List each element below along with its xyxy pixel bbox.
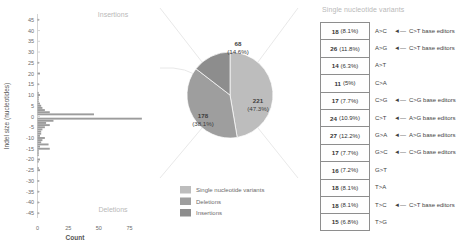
snv-count-percent: (7.2%) — [341, 167, 359, 173]
snv-count-value: 11 — [334, 80, 341, 87]
svg-text:5: 5 — [31, 103, 34, 109]
snv-row: 26(11.8%)A>G◄—C>T base editors — [320, 39, 463, 56]
snv-count-cell: 27(12.2%) — [320, 126, 370, 143]
snv-row: 18(8.1%)T>C◄—C>T base editors — [320, 196, 463, 213]
indel-y-axis-title: Indel size (nucleotides) — [3, 83, 11, 149]
snv-annotation-label: C>G base editors — [409, 149, 456, 155]
pie-label-snv-value: 221 — [253, 97, 264, 104]
snv-base-editor-annotation: ◄—C>G base editors — [394, 149, 463, 155]
snv-substitution: A>T — [370, 62, 394, 68]
svg-text:45: 45 — [28, 17, 34, 23]
snv-count-percent: (5%) — [343, 80, 356, 86]
snv-substitution: C>G — [370, 97, 394, 103]
insertions-annotation: Insertions — [98, 11, 129, 18]
svg-text:20: 20 — [28, 71, 34, 77]
snv-substitution: A>G — [370, 45, 394, 51]
svg-text:Insertions: Insertions — [196, 210, 222, 216]
snv-annotation-label: C>T base editors — [409, 45, 455, 51]
snv-count-value: 17 — [332, 97, 339, 104]
left-arrow-icon: ◄— — [394, 28, 406, 34]
pie-label-insertions-pct: (14.6%) — [227, 48, 249, 55]
snv-annotation-label: C>T base editors — [409, 202, 455, 208]
svg-text:50: 50 — [96, 225, 102, 231]
svg-text:-35: -35 — [26, 189, 34, 195]
svg-text:35: 35 — [28, 38, 34, 44]
svg-text:-20: -20 — [26, 156, 34, 162]
svg-text:0: 0 — [36, 225, 39, 231]
svg-text:15: 15 — [28, 81, 34, 87]
snv-count-value: 18 — [332, 28, 339, 35]
snv-panel-title: Single nucleotide variants — [322, 6, 404, 13]
snv-annotation-label: C>T base editors — [409, 28, 455, 34]
snv-substitution: G>T — [370, 167, 394, 173]
indel-x-ticks: 0255075 — [36, 225, 133, 231]
snv-substitution: C>A — [370, 80, 394, 86]
svg-text:-30: -30 — [26, 178, 34, 184]
snv-base-editor-annotation: ◄—C>T base editors — [394, 202, 463, 208]
snv-count-percent: (8.1%) — [341, 202, 359, 208]
snv-base-editor-annotation: ◄—C>T base editors — [394, 28, 463, 34]
left-arrow-icon: ◄— — [394, 149, 406, 155]
snv-count-percent: (7.7%) — [341, 98, 359, 104]
svg-text:75: 75 — [127, 225, 133, 231]
snv-count-percent: (12.2%) — [339, 133, 360, 139]
snv-annotation-label: C>G base editors — [409, 97, 456, 103]
snv-row: 15(6.8%)T>G — [320, 213, 463, 230]
snv-count-value: 27 — [330, 132, 337, 139]
svg-text:-40: -40 — [26, 199, 34, 205]
left-arrow-icon: ◄— — [394, 115, 406, 121]
snv-row: 27(12.2%)G>A◄—A>G base editors — [320, 126, 463, 143]
left-arrow-icon: ◄— — [394, 45, 406, 51]
snv-count-value: 17 — [332, 149, 339, 156]
snv-substitution: G>A — [370, 132, 394, 138]
snv-count-value: 18 — [332, 184, 339, 191]
snv-annotation-label: A>G base editors — [409, 115, 456, 121]
pie-label-deletions-pct: (38.1%) — [192, 120, 214, 127]
indel-histogram-panel: 454035302520151050-5-10-15-20-25-30-35-4… — [0, 0, 160, 244]
snv-count-cell: 18(8.1%) — [320, 196, 370, 213]
snv-count-percent: (8.1%) — [341, 28, 359, 34]
indel-histogram-svg: 454035302520151050-5-10-15-20-25-30-35-4… — [0, 0, 160, 244]
deletions-annotation: Deletions — [98, 206, 128, 213]
svg-text:-15: -15 — [26, 146, 34, 152]
pie-label-insertions-value: 68 — [235, 40, 242, 47]
outcome-pie-panel: 68 (14.6%) 221 (47.3%) 178 (38.1%) Singl… — [140, 0, 315, 244]
pie-label-deletions-value: 178 — [198, 112, 209, 119]
snv-substitution: A>C — [370, 28, 394, 34]
snv-row: 17(7.7%)C>G◄—C>G base editors — [320, 92, 463, 109]
outcome-pie-svg: 68 (14.6%) 221 (47.3%) 178 (38.1%) Singl… — [140, 0, 315, 244]
snv-base-editor-annotation: ◄—C>T base editors — [394, 45, 463, 51]
snv-substitution: T>C — [370, 202, 394, 208]
svg-text:-5: -5 — [29, 124, 34, 130]
snv-count-percent: (7.7%) — [341, 150, 359, 156]
svg-text:25: 25 — [65, 225, 71, 231]
snv-count-value: 18 — [332, 202, 339, 209]
snv-count-cell: 17(7.7%) — [320, 144, 370, 161]
svg-text:0: 0 — [31, 114, 34, 120]
snv-count-cell: 26(11.8%) — [320, 39, 370, 56]
left-arrow-icon: ◄— — [394, 132, 406, 138]
svg-text:Single nucleotide variants: Single nucleotide variants — [196, 187, 264, 193]
left-arrow-icon: ◄— — [394, 97, 406, 103]
snv-count-value: 14 — [332, 62, 339, 69]
snv-count-value: 15 — [332, 218, 339, 225]
snv-table-panel: Single nucleotide variants 18(8.1%)A>C◄—… — [316, 0, 463, 244]
snv-count-percent: (8.1%) — [341, 185, 359, 191]
snv-row: 14(6.3%)A>T — [320, 57, 463, 74]
snv-count-percent: (6.8%) — [341, 219, 359, 225]
snv-count-percent: (6.3%) — [341, 63, 359, 69]
snv-count-cell: 24(10.9%) — [320, 109, 370, 126]
snv-count-value: 16 — [332, 167, 339, 174]
figure-root: 454035302520151050-5-10-15-20-25-30-35-4… — [0, 0, 463, 244]
snv-count-value: 26 — [330, 45, 337, 52]
snv-table: 18(8.1%)A>C◄—C>T base editors26(11.8%)A>… — [320, 22, 463, 231]
snv-count-percent: (10.9%) — [339, 115, 360, 121]
snv-substitution: G>C — [370, 149, 394, 155]
snv-row: 11(5%)C>A — [320, 74, 463, 91]
snv-row: 24(10.9%)C>T◄—A>G base editors — [320, 109, 463, 126]
indel-x-axis-title: Count — [66, 234, 86, 241]
svg-text:25: 25 — [28, 60, 34, 66]
snv-count-cell: 16(7.2%) — [320, 161, 370, 178]
svg-text:-45: -45 — [26, 210, 34, 216]
snv-count-cell: 14(6.3%) — [320, 57, 370, 74]
